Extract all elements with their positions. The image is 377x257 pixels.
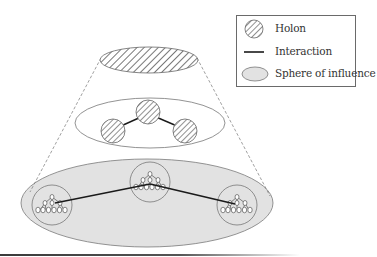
legend-item-interaction: Interaction	[237, 42, 355, 62]
middle-holon-top	[136, 100, 160, 124]
legend-label-interaction: Interaction	[275, 45, 332, 57]
top-holon	[100, 47, 198, 73]
middle-holon-left	[101, 119, 125, 143]
hatched-circle-icon	[241, 19, 271, 39]
line-icon	[241, 42, 271, 62]
middle-level	[75, 98, 225, 148]
bottom-rule	[0, 254, 300, 256]
legend-item-holon: Holon	[237, 19, 355, 39]
legend-item-sphere: Sphere of influence	[237, 64, 355, 84]
legend: Holon Interaction Sphere of influence	[236, 15, 356, 87]
legend-label-holon: Holon	[275, 22, 306, 34]
legend-label-sphere: Sphere of influence	[275, 67, 375, 79]
gray-ellipse-icon	[241, 64, 271, 84]
middle-holon-right	[173, 119, 197, 143]
